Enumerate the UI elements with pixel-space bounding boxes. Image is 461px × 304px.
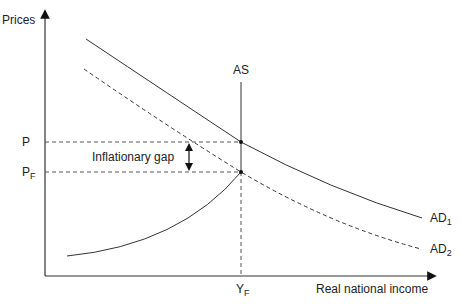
gap-arrow-up-head: [185, 143, 193, 151]
as-label: AS: [233, 64, 249, 76]
diagram-canvas: [0, 0, 461, 304]
equilibrium-point-pf: [239, 170, 243, 174]
gap-arrow-down-head: [185, 163, 193, 171]
ad2-label: AD2: [430, 243, 452, 258]
income-label-yf: YF: [236, 283, 250, 298]
inflationary-gap-label: Inflationary gap: [92, 151, 174, 163]
ad1-label: AD1: [430, 212, 452, 227]
price-label-pf: PF: [22, 166, 36, 181]
ad1-curve: [86, 39, 422, 218]
as-curve: [67, 82, 241, 256]
x-axis-label: Real national income: [316, 283, 428, 295]
equilibrium-point-p: [239, 140, 243, 144]
y-axis-label: Prices: [2, 14, 35, 26]
price-label-p: P: [22, 136, 30, 148]
